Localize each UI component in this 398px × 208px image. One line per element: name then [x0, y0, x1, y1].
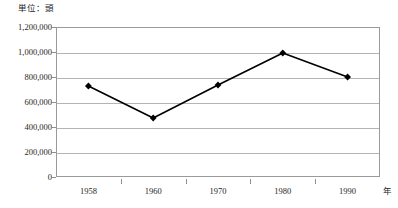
x-tick-mark [121, 179, 122, 184]
y-tick-label: 1,000,000 [0, 48, 52, 57]
x-tick-label: 1990 [339, 186, 356, 196]
x-axis: 19581960197019801990 [56, 179, 380, 201]
y-tick-label: 1,200,000 [0, 23, 52, 32]
y-tick-mark [52, 177, 56, 178]
x-tick-label: 1970 [210, 186, 227, 196]
y-tick-label: 0 [0, 173, 52, 182]
x-tick-mark [315, 179, 316, 184]
data-point-marker [215, 82, 222, 89]
data-point-marker [344, 74, 351, 81]
x-tick-mark [186, 179, 187, 184]
y-tick-label: 400,000 [0, 123, 52, 132]
x-tick-mark [250, 179, 251, 184]
line-chart: 単位：頭 0200,000400,000600,000800,0001,000,… [0, 0, 398, 208]
x-tick-label: 1980 [274, 186, 291, 196]
series-layer [56, 27, 380, 177]
data-point-marker [279, 50, 286, 57]
y-tick-label: 800,000 [0, 73, 52, 82]
y-tick-label: 200,000 [0, 148, 52, 157]
unit-caption: 単位：頭 [18, 3, 54, 14]
y-axis: 0200,000400,000600,000800,0001,000,0001,… [0, 27, 52, 177]
data-point-marker [85, 83, 92, 90]
y-tick-label: 600,000 [0, 98, 52, 107]
x-tick-label: 1958 [80, 186, 97, 196]
x-axis-title: 年 [383, 186, 392, 196]
x-tick-label: 1960 [145, 186, 162, 196]
data-point-marker [150, 115, 157, 122]
